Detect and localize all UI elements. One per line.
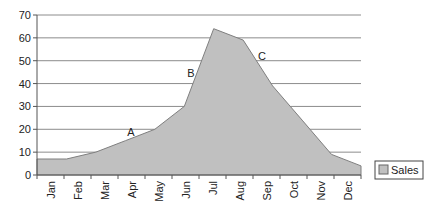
annotation-label: B <box>187 67 194 79</box>
y-tick-label: 30 <box>19 100 31 112</box>
x-axis-ticks: JanFebMarAprMayJunJulAugSepOctNovDec <box>37 175 361 202</box>
x-tick-label: Nov <box>315 181 327 201</box>
x-tick-label: Jan <box>45 181 57 199</box>
sales-area <box>37 29 361 175</box>
y-axis-ticks: 010203040506070 <box>19 9 37 181</box>
annotation-label: A <box>127 126 135 138</box>
legend: Sales <box>375 161 423 179</box>
x-tick-label: Aug <box>234 181 246 201</box>
y-tick-label: 20 <box>19 123 31 135</box>
x-tick-label: Sep <box>261 181 273 201</box>
y-tick-label: 70 <box>19 9 31 21</box>
y-tick-label: 60 <box>19 32 31 44</box>
x-tick-label: Jun <box>180 181 192 199</box>
y-tick-label: 0 <box>25 169 31 181</box>
area-chart: 010203040506070 JanFebMarAprMayJunJulAug… <box>0 0 441 214</box>
y-tick-label: 10 <box>19 146 31 158</box>
legend-swatch-icon <box>379 165 388 174</box>
x-tick-label: Dec <box>342 181 354 201</box>
x-tick-label: May <box>153 181 165 202</box>
annotation-label: C <box>258 50 266 62</box>
x-tick-label: Mar <box>99 181 111 200</box>
x-tick-label: Apr <box>126 181 138 198</box>
x-tick-label: Feb <box>72 181 84 200</box>
y-tick-label: 40 <box>19 78 31 90</box>
x-tick-label: Oct <box>288 181 300 198</box>
y-tick-label: 50 <box>19 55 31 67</box>
x-tick-label: Jul <box>207 181 219 195</box>
legend-label: Sales <box>391 164 419 176</box>
